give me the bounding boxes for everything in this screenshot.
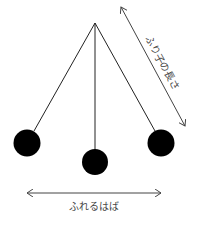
amplitude-label: ふれるはば — [69, 201, 119, 212]
bob-center — [82, 149, 108, 175]
bob-right — [148, 130, 175, 157]
length-arrow — [121, 7, 185, 126]
string-left — [34, 23, 95, 131]
pendulum-diagram: ふり子の長さ ふれるはば — [0, 0, 201, 230]
bob-left — [14, 130, 41, 157]
